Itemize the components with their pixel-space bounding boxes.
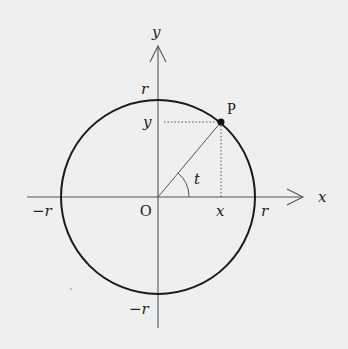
radius-right-label: r [261, 202, 269, 220]
point-label: P [227, 100, 236, 117]
radius-bottom-label: −r [129, 300, 150, 318]
x-axis-label: x [318, 188, 327, 206]
angle-label: t [194, 170, 201, 188]
y-axis-label: y [151, 23, 161, 41]
radius-line [158, 122, 221, 197]
x-coord-label: x [216, 202, 225, 220]
speck [70, 288, 72, 290]
circle-diagram: y x P r y t O x r −r −r [0, 0, 348, 349]
origin-label: O [140, 202, 152, 219]
y-coord-label: y [142, 113, 152, 131]
radius-left-label: −r [32, 202, 53, 220]
angle-arc [178, 173, 189, 197]
radius-top-label: r [141, 80, 149, 98]
point-p [218, 119, 225, 126]
